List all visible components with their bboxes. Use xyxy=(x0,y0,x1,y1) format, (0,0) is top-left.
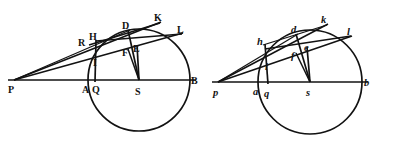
right-label-h: h xyxy=(257,36,263,47)
right-label-a: a xyxy=(253,86,258,97)
right-label-e: e xyxy=(304,42,309,53)
left-diagram: P A Q S B R H I D F E K L xyxy=(8,12,198,131)
left-label-Q: Q xyxy=(92,84,100,95)
left-label-D: D xyxy=(122,20,129,31)
right-diagram: p a q s b h i d f e k l xyxy=(212,14,369,134)
right-label-p: p xyxy=(212,87,218,98)
left-label-I: I xyxy=(93,57,97,68)
left-label-E: E xyxy=(133,43,140,54)
left-ray-p-l xyxy=(14,33,183,80)
left-label-S: S xyxy=(135,86,141,97)
figure-canvas: P A Q S B R H I D F E K L xyxy=(0,0,408,148)
geometric-diagram: P A Q S B R H I D F E K L xyxy=(0,0,408,148)
left-label-K: K xyxy=(154,12,162,23)
left-label-A: A xyxy=(82,84,90,95)
right-label-q: q xyxy=(264,88,269,99)
left-label-H: H xyxy=(89,31,97,42)
right-label-d: d xyxy=(291,24,297,35)
left-label-F: F xyxy=(122,47,128,58)
right-label-b: b xyxy=(364,77,369,88)
right-label-i: i xyxy=(265,61,268,72)
right-label-k: k xyxy=(321,14,327,25)
left-label-L: L xyxy=(177,24,184,35)
right-label-s: s xyxy=(305,87,310,98)
right-ray-p-k xyxy=(218,24,328,82)
left-label-P: P xyxy=(8,84,14,95)
left-label-R: R xyxy=(78,37,86,48)
left-label-B: B xyxy=(191,75,198,86)
right-label-l: l xyxy=(347,26,350,37)
right-ray-p-l xyxy=(218,36,352,82)
